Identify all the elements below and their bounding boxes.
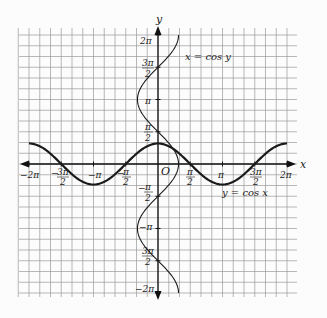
svg-text:2: 2 [144, 193, 151, 203]
y-tick-pi2: π [144, 122, 152, 132]
x-tick-neg-pi2: π [122, 167, 130, 177]
x-tick-neg-3pi2: 3π [57, 167, 70, 177]
svg-text:2: 2 [122, 177, 129, 187]
y-axis-label: y [155, 13, 163, 26]
x-axis-label: x [300, 158, 307, 171]
x-tick-neg-pi: −π [88, 170, 103, 180]
x-tick-neg-2pi: −2π [20, 170, 40, 180]
svg-text:2: 2 [144, 257, 151, 267]
svg-text:2: 2 [59, 177, 66, 187]
svg-text:2: 2 [252, 177, 259, 187]
x-tick-labels: −2π − 3π 2 −π − π 2 π 2 π 3π 2 2π [20, 167, 293, 187]
y-tick-pi: π [144, 96, 152, 106]
x-tick-pi: π [217, 170, 225, 180]
x-tick-3pi2: 3π [250, 167, 263, 177]
curve-label-y-cos-x: y = cos x [221, 187, 268, 198]
svg-text:2: 2 [186, 177, 193, 187]
x-axis-left-arrow-icon [20, 161, 29, 168]
x-tick-pi2: π [186, 167, 194, 177]
y-tick-neg-pi2: π [144, 182, 152, 192]
y-tick-3pi2: 3π [142, 58, 155, 68]
x-tick-2pi: 2π [279, 170, 293, 180]
y-axis-up-arrow-icon [155, 26, 162, 35]
svg-text:2: 2 [144, 69, 151, 79]
y-tick-neg-pi: −π [139, 222, 154, 232]
curve-label-x-cos-y: x = cos y [185, 51, 231, 62]
y-tick-neg-2pi: −2π [135, 284, 155, 294]
origin-label: O [161, 165, 170, 178]
y-tick-2pi: 2π [139, 36, 153, 46]
y-tick-labels: 2π 3π 2 π π 2 − π 2 −π 3π 2 −2π [135, 36, 155, 294]
x-axis-right-arrow-icon [287, 161, 296, 168]
y-tick-neg-3pi2: 3π [142, 246, 155, 256]
svg-text:2: 2 [144, 133, 151, 143]
y-axis-down-arrow-icon [155, 291, 162, 300]
graph-canvas: x y O x = cos y y = cos x −2π − 3π 2 −π … [0, 0, 327, 318]
